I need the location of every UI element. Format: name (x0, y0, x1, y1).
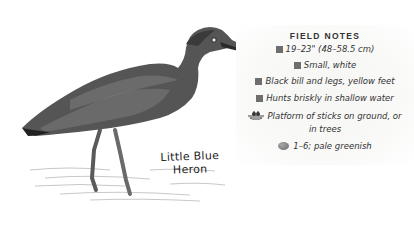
nest-icon (248, 110, 264, 121)
note-text: 19–23" (48–58.5 cm) (286, 44, 375, 54)
species-label: Little Blue Heron (150, 149, 231, 178)
note-nest: Platform of sticks on ground, or (236, 110, 414, 122)
gray-square-icon (256, 95, 263, 102)
note-text: Small, white (304, 60, 356, 70)
note-size: 19–23" (48–58.5 cm) (236, 44, 414, 55)
note-text: Black bill and legs, yellow feet (265, 76, 394, 86)
note-bill-legs: Black bill and legs, yellow feet (236, 76, 414, 87)
note-nest-line2: in trees (236, 124, 414, 135)
note-text: Hunts briskly in shallow water (266, 93, 394, 103)
note-text: Platform of sticks on ground, or (267, 111, 401, 121)
heron-bird (22, 27, 268, 194)
note-eggs: 1–6; pale greenish (236, 141, 414, 152)
gray-square-icon (294, 62, 301, 69)
note-plumage: Small, white (236, 60, 414, 71)
field-notes-title: FIELD NOTES (250, 31, 400, 41)
note-behavior: Hunts briskly in shallow water (236, 93, 414, 104)
gray-square-icon (255, 78, 262, 85)
egg-icon (278, 142, 289, 150)
gray-square-icon (276, 46, 283, 53)
note-text: 1–6; pale greenish (293, 141, 371, 151)
